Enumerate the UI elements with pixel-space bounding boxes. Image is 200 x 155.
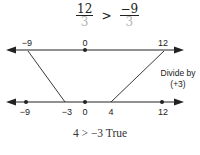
divide-by-annotation: Divide by (+3) [156, 68, 200, 90]
bottom-dot-neg9 [24, 100, 28, 104]
bottom-label-12: 12 [158, 107, 168, 117]
bottom-label-neg9: −9 [20, 107, 30, 117]
right-arrow-icon [174, 99, 184, 106]
bottom-dot-12 [160, 100, 164, 104]
map-line-neg9-to-neg3 [28, 51, 65, 102]
bottom-label-4: 4 [108, 107, 113, 117]
bottom-number-line: −9 −3 0 4 12 [6, 99, 184, 118]
annotation-line-1: Divide by [156, 68, 200, 79]
top-label-12: 12 [158, 38, 168, 48]
top-label-neg9: −9 [22, 38, 32, 48]
bottom-label-neg3: −3 [62, 107, 72, 117]
top-dot-zero [83, 48, 87, 52]
left-arrow-icon [6, 47, 16, 54]
annotation-line-2: (+3) [156, 79, 200, 90]
right-arrow-icon [174, 47, 184, 54]
top-number-line: −9 0 12 [6, 38, 184, 54]
left-arrow-icon [6, 99, 16, 106]
bottom-dot-zero [83, 100, 87, 104]
bottom-label-0: 0 [82, 107, 87, 117]
result-statement: 4 > −3 True [0, 127, 200, 139]
top-label-0: 0 [82, 38, 87, 48]
